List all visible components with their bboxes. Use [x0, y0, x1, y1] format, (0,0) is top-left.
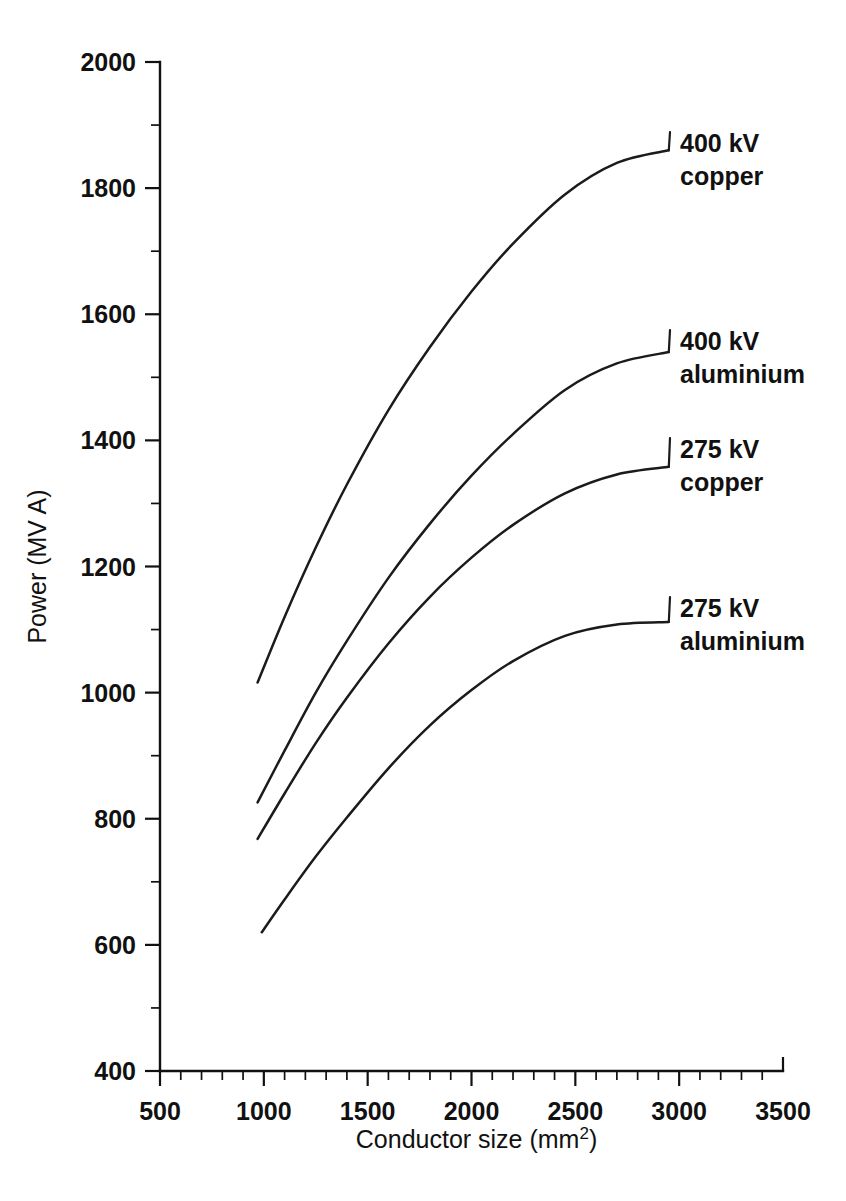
x-axis-tick-label: 2000 [444, 1097, 500, 1125]
y-axis-tick-label: 2000 [80, 48, 136, 76]
series-curve [258, 467, 669, 839]
chart-tick-labels: 4006008001000120014001600180020005001000… [80, 48, 810, 1125]
series-label-material: aluminium [680, 627, 805, 655]
y-axis-tick-label: 1600 [80, 300, 136, 328]
y-axis-tick-label: 600 [94, 931, 136, 959]
chart-container: 4006008001000120014001600180020005001000… [0, 0, 846, 1201]
x-axis-tick-label: 1500 [340, 1097, 396, 1125]
series-label-voltage: 275 kV [680, 594, 760, 622]
y-axis-tick-label: 1000 [80, 679, 136, 707]
line-chart: 4006008001000120014001600180020005001000… [0, 0, 846, 1201]
x-axis-title: Conductor size (mm2) [356, 1124, 597, 1153]
chart-series-labels: 400 kVcopper400 kValuminium275 kVcopper2… [680, 129, 805, 655]
series-curve [262, 622, 669, 932]
series-leader-line [669, 597, 670, 622]
series-label-voltage: 400 kV [680, 327, 760, 355]
series-label-voltage: 400 kV [680, 129, 760, 157]
x-axis-tick-label: 500 [139, 1097, 181, 1125]
x-axis-tick-label: 2500 [548, 1097, 604, 1125]
series-label-material: copper [680, 468, 764, 496]
y-axis-tick-label: 400 [94, 1057, 136, 1085]
y-axis-title: Power (MV A) [23, 489, 51, 643]
y-axis-tick-label: 1800 [80, 174, 136, 202]
y-axis-tick-label: 1400 [80, 426, 136, 454]
x-axis-tick-label: 3000 [651, 1097, 707, 1125]
y-axis-tick-label: 800 [94, 805, 136, 833]
chart-series-curves [258, 150, 669, 932]
x-axis-tick-label: 3500 [755, 1097, 811, 1125]
series-curve [258, 352, 669, 802]
chart-axes [160, 62, 783, 1071]
series-label-voltage: 275 kV [680, 435, 760, 463]
series-leader-line [669, 330, 670, 352]
chart-annotation-leaders [669, 132, 670, 622]
series-leader-line [669, 438, 670, 467]
series-curve [258, 150, 669, 682]
series-label-material: copper [680, 162, 764, 190]
series-label-material: aluminium [680, 360, 805, 388]
series-leader-line [669, 132, 670, 150]
y-axis-tick-label: 1200 [80, 553, 136, 581]
x-axis-tick-label: 1000 [236, 1097, 292, 1125]
